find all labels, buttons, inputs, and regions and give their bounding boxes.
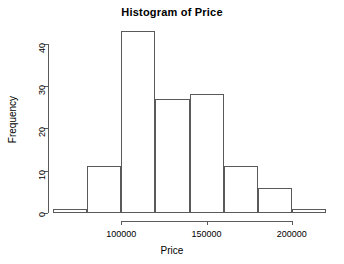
- histogram-bar: [87, 166, 121, 213]
- x-tick-label: 100000: [91, 229, 151, 239]
- histogram-bar: [224, 166, 258, 213]
- x-axis-title: Price: [0, 245, 344, 256]
- plot-area: 010203040 100000150000200000 Frequency P…: [0, 0, 344, 264]
- y-tick-label: 30: [37, 85, 47, 119]
- histogram-bar: [258, 188, 292, 213]
- histogram-bar: [190, 94, 224, 213]
- y-tick-label: 0: [37, 212, 47, 246]
- histogram-chart: Histogram of Price 010203040 10000015000…: [0, 0, 344, 264]
- y-tick-label: 10: [37, 170, 47, 204]
- histogram-bar: [155, 99, 189, 213]
- x-tick-label: 150000: [177, 229, 237, 239]
- y-tick-label: 40: [37, 43, 47, 77]
- x-tick-mark: [292, 221, 293, 225]
- x-tick-mark: [121, 221, 122, 225]
- y-axis-title: Frequency: [7, 60, 18, 180]
- y-axis-line: [48, 44, 49, 213]
- histogram-bar: [292, 209, 326, 213]
- histogram-bar: [53, 209, 87, 213]
- histogram-bar: [121, 31, 155, 213]
- x-tick-label: 200000: [262, 229, 322, 239]
- x-tick-mark: [207, 221, 208, 225]
- y-tick-label: 20: [37, 127, 47, 161]
